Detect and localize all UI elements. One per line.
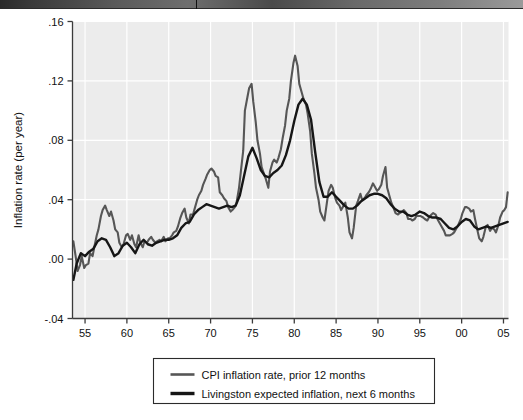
y-tick-label: .08 (48, 134, 63, 146)
x-tick-label: 95 (414, 327, 426, 339)
inflation-line-chart: 5560657075808590950005 -.04.00.04.08.12.… (0, 0, 523, 420)
legend-label-1: CPI inflation rate, prior 12 months (202, 369, 366, 381)
y-tick-label: .12 (48, 75, 63, 87)
plot-background (73, 22, 509, 319)
y-tick-label: .00 (48, 253, 63, 265)
chart-area: 5560657075808590950005 -.04.00.04.08.12.… (0, 0, 523, 420)
y-tick-label: .04 (48, 194, 63, 206)
x-axis-ticks: 5560657075808590950005 (79, 319, 510, 339)
y-axis-title: Inflation rate (per year) (12, 112, 24, 229)
x-tick-label: 00 (456, 327, 468, 339)
y-axis-ticks: -.04.00.04.08.12.16 (45, 16, 73, 325)
x-tick-label: 70 (204, 327, 216, 339)
x-tick-label: 55 (79, 327, 91, 339)
chart-legend: CPI inflation rate, prior 12 monthsLivin… (154, 359, 435, 404)
x-tick-label: 85 (330, 327, 342, 339)
x-tick-label: 90 (372, 327, 384, 339)
x-tick-label: 75 (246, 327, 258, 339)
y-tick-label: .16 (48, 16, 63, 28)
figure-container: 5560657075808590950005 -.04.00.04.08.12.… (0, 0, 523, 420)
x-tick-label: 80 (288, 327, 300, 339)
y-tick-label: -.04 (45, 313, 64, 325)
x-tick-label: 60 (121, 327, 133, 339)
legend-label-2: Livingston expected inflation, next 6 mo… (202, 388, 416, 400)
x-tick-label: 65 (163, 327, 175, 339)
y-axis-title-text: Inflation rate (per year) (12, 112, 24, 229)
x-tick-label: 05 (497, 327, 509, 339)
